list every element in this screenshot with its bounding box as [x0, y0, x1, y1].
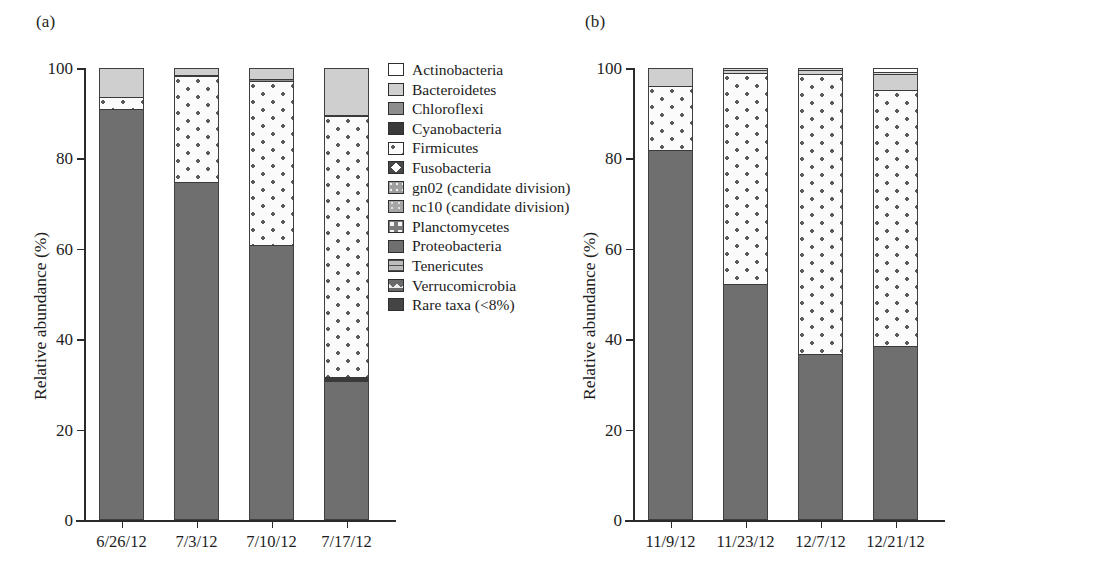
- panel-b: (b) Relative abundance (%) 0204060801001…: [549, 0, 1099, 576]
- panel-b-y-tick-label: 60: [605, 240, 622, 257]
- panel-a-y-tick: [77, 68, 84, 70]
- panel-a-legend-item: Cyanobacteria: [388, 119, 570, 139]
- panel-a-x-tick: [197, 521, 199, 528]
- panel-a-legend-label: Tenericutes: [412, 258, 483, 274]
- panel-a: (a) Relative abundance (%) 0204060801006…: [0, 0, 550, 576]
- panel-a-legend-swatch-icon: [388, 102, 404, 115]
- panel-a-legend-swatch-icon: [388, 200, 404, 213]
- panel-b-y-tick: [626, 158, 633, 160]
- panel-a-y-tick-label: 20: [56, 421, 73, 438]
- panel-a-legend-swatch-icon: [388, 122, 404, 135]
- panel-b-bar-segment: [723, 70, 768, 73]
- panel-a-bar-segment: [174, 76, 219, 182]
- panel-b-y-tick-label: 0: [614, 512, 623, 529]
- panel-a-legend-item: Bacteroidetes: [388, 80, 570, 100]
- panel-a-legend-item: Fusobacteria: [388, 158, 570, 178]
- panel-b-plot-area: 02040608010011/9/1211/23/1212/7/1212/21/…: [633, 68, 933, 520]
- panel-b-bar-segment: [798, 354, 843, 520]
- panel-a-legend-label: Verrucomicrobia: [412, 278, 516, 294]
- panel-b-y-tick: [626, 430, 633, 432]
- panel-a-x-tick-label: 7/10/12: [246, 534, 296, 551]
- panel-a-legend-item: Actinobacteria: [388, 60, 570, 80]
- panel-b-y-tick-label: 20: [605, 421, 622, 438]
- panel-b-x-tick: [746, 521, 748, 528]
- panel-a-legend: ActinobacteriaBacteroidetesChloroflexiCy…: [388, 60, 570, 315]
- panel-a-y-tick-label: 0: [65, 512, 74, 529]
- panel-b-x-tick: [671, 521, 673, 528]
- panel-a-y-tick: [77, 339, 84, 341]
- panel-b-y-tick-label: 80: [605, 150, 622, 167]
- panel-b-y-tick-label: 40: [605, 331, 622, 348]
- panel-a-legend-swatch-icon: [388, 240, 404, 253]
- panel-a-bar-segment: [324, 68, 369, 115]
- panel-a-bar-segment: [249, 79, 294, 80]
- panel-a-legend-item: Proteobacteria: [388, 236, 570, 256]
- panel-a-legend-label: Fusobacteria: [412, 160, 491, 176]
- panel-a-bar-segment: [249, 245, 294, 520]
- panel-a-legend-swatch-icon: [388, 259, 404, 272]
- panel-a-y-tick: [77, 520, 84, 522]
- panel-b-bar-segment: [873, 74, 918, 90]
- panel-a-legend-item: nc10 (candidate division): [388, 197, 570, 217]
- panel-b-bar-segment: [798, 68, 843, 70]
- panel-b-bar-segment: [723, 284, 768, 520]
- figure-root: (a) Relative abundance (%) 0204060801006…: [0, 0, 1099, 576]
- panel-a-legend-swatch-icon: [388, 220, 404, 233]
- panel-a-label: (a): [36, 12, 55, 32]
- panel-b-bar-segment: [873, 72, 918, 74]
- panel-a-y-tick: [77, 430, 84, 432]
- panel-b-x-tick-label: 12/7/12: [795, 534, 845, 551]
- panel-a-y-axis-label: Relative abundance (%): [30, 232, 51, 400]
- panel-a-x-tick: [272, 521, 274, 528]
- panel-b-y-tick: [626, 339, 633, 341]
- panel-b-bar: [648, 68, 693, 520]
- panel-a-legend-label: Firmicutes: [412, 140, 478, 156]
- panel-a-x-tick: [122, 521, 124, 528]
- panel-b-y-tick: [626, 520, 633, 522]
- panel-a-legend-item: Tenericutes: [388, 256, 570, 276]
- panel-b-bar-segment: [723, 73, 768, 285]
- panel-b-x-tick-label: 11/9/12: [646, 534, 696, 551]
- panel-a-bar-segment: [324, 381, 369, 520]
- panel-b-y-axis: [633, 68, 635, 520]
- panel-a-legend-item: gn02 (candidate division): [388, 178, 570, 198]
- panel-b-bar-segment: [648, 150, 693, 520]
- panel-a-legend-item: Firmicutes: [388, 138, 570, 158]
- panel-a-bar-segment: [174, 75, 219, 76]
- panel-a-bar-segment: [99, 109, 144, 520]
- panel-a-legend-item: Verrucomicrobia: [388, 276, 570, 296]
- panel-a-bar: [324, 68, 369, 520]
- panel-a-bar-segment: [249, 68, 294, 79]
- panel-a-legend-label: Actinobacteria: [412, 62, 503, 78]
- panel-b-bar: [723, 68, 768, 520]
- panel-a-bar-segment: [324, 116, 369, 376]
- panel-a-y-tick-label: 100: [48, 60, 74, 77]
- panel-a-legend-swatch-icon: [388, 161, 404, 174]
- panel-a-legend-item: Rare taxa (<8%): [388, 295, 570, 315]
- panel-a-legend-label: Planctomycetes: [412, 219, 509, 235]
- panel-b-bar-segment: [873, 346, 918, 520]
- panel-b-x-tick-label: 11/23/12: [716, 534, 774, 551]
- panel-b-bar-segment: [723, 68, 768, 70]
- panel-a-x-tick-label: 7/17/12: [321, 534, 371, 551]
- panel-a-legend-label: Proteobacteria: [412, 238, 502, 254]
- panel-b-x-tick: [896, 521, 898, 528]
- panel-a-legend-label: Bacteroidetes: [412, 82, 496, 98]
- panel-b-bar-segment: [873, 90, 918, 346]
- panel-b-bar-segment: [648, 86, 693, 150]
- panel-a-legend-label: Chloroflexi: [412, 101, 483, 117]
- panel-a-bar: [99, 68, 144, 520]
- panel-a-legend-swatch-icon: [388, 63, 404, 76]
- panel-a-legend-swatch-icon: [388, 83, 404, 96]
- panel-a-legend-item: Chloroflexi: [388, 99, 570, 119]
- panel-b-y-tick-label: 100: [597, 60, 623, 77]
- panel-a-y-tick-label: 40: [56, 331, 73, 348]
- panel-b-label: (b): [585, 12, 605, 32]
- panel-a-bar-segment: [324, 377, 369, 381]
- panel-a-x-tick-label: 6/26/12: [96, 534, 146, 551]
- panel-a-legend-label: Cyanobacteria: [412, 121, 502, 137]
- panel-a-legend-label: gn02 (candidate division): [412, 180, 570, 196]
- panel-a-legend-swatch-icon: [388, 279, 404, 292]
- panel-a-x-tick-label: 7/3/12: [175, 534, 217, 551]
- panel-a-legend-swatch-icon: [388, 181, 404, 194]
